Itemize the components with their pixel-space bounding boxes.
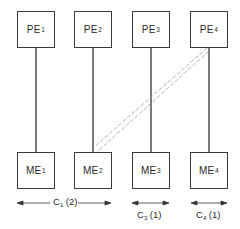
memory-box-me1: ME1 [17, 152, 55, 189]
dashed-link-pe4-me2-b [97, 51, 209, 152]
pe3-label: PE [142, 24, 156, 35]
memory-box-me4: ME4 [190, 152, 228, 189]
cluster-label-c4: C4 (1) [195, 209, 221, 221]
processor-box-pe1: PE1 [17, 11, 55, 48]
cluster-label-c3: C3 (1) [136, 209, 162, 221]
processor-box-pe2: PE2 [74, 11, 112, 48]
processor-box-pe3: PE3 [132, 11, 170, 48]
pe2-label: PE [84, 24, 98, 35]
pe4-label: PE [200, 24, 214, 35]
me4-label: ME [199, 165, 215, 176]
memory-box-me2: ME2 [74, 152, 112, 189]
me2-label: ME [83, 165, 99, 176]
cluster-arrow-c3 [132, 201, 169, 205]
me1-label: ME [26, 165, 42, 176]
cluster-label-c1: C1 (2) [52, 196, 78, 208]
cluster-arrow-c4 [191, 201, 227, 205]
me3-label: ME [141, 165, 157, 176]
processor-box-pe4: PE4 [190, 11, 228, 48]
memory-box-me3: ME3 [132, 152, 170, 189]
pe1-label: PE [27, 24, 41, 35]
dashed-link-pe4-me2-a [93, 48, 207, 148]
